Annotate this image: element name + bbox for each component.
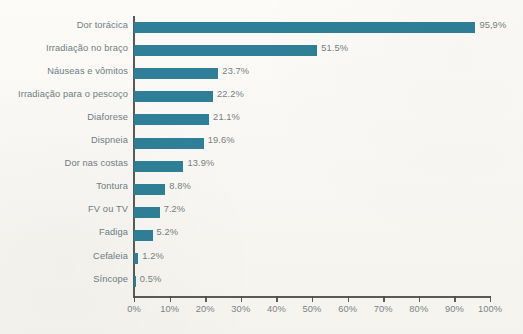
bar	[134, 276, 136, 287]
x-axis-tick	[348, 296, 349, 302]
bar-row: Náuseas e vômitos23.7%	[134, 62, 490, 85]
bar-value-label: 21.1%	[213, 112, 240, 122]
bar-value-label: 5.2%	[157, 227, 179, 237]
bar-row: Dor torácica95,9%	[134, 16, 490, 39]
bar-value-label: 19.6%	[208, 135, 235, 145]
category-label: Dor nas costas	[2, 158, 128, 168]
x-axis-tick-label: 10%	[160, 304, 179, 314]
x-axis-tick-label: 80%	[409, 304, 428, 314]
x-axis-tick-label: 60%	[338, 304, 357, 314]
x-axis-tick	[490, 296, 491, 302]
bar	[134, 138, 204, 149]
category-label: Fadiga	[2, 227, 128, 237]
category-label: Cefaleia	[2, 251, 128, 261]
bar-value-label: 95,9%	[479, 20, 506, 30]
bar	[134, 161, 183, 172]
x-axis-tick-label: 90%	[445, 304, 464, 314]
bar-row: Cefaleia1.2%	[134, 247, 490, 270]
bar-value-label: 0.5%	[140, 274, 162, 284]
bar	[134, 114, 209, 125]
bar-value-label: 8.8%	[169, 181, 191, 191]
bar-row: Dor nas costas13.9%	[134, 155, 490, 178]
bar-value-label: 7.2%	[164, 204, 186, 214]
x-axis-tick	[276, 296, 277, 302]
bar-row: Irradiação no braço51.5%	[134, 39, 490, 62]
bar	[134, 230, 153, 241]
x-axis-tick-label: 0%	[127, 304, 141, 314]
category-label: Náuseas e vômitos	[2, 66, 128, 76]
x-axis-tick-label: 100%	[478, 304, 502, 314]
x-axis-tick-label: 40%	[267, 304, 286, 314]
bar	[134, 68, 218, 79]
x-axis-tick-label: 30%	[231, 304, 250, 314]
x-axis-tick	[205, 296, 206, 302]
category-label: Dispneia	[2, 135, 128, 145]
bar	[134, 91, 213, 102]
x-axis-tick-label: 20%	[196, 304, 215, 314]
bar-row: Tontura8.8%	[134, 178, 490, 201]
bar	[134, 253, 138, 264]
bar-value-label: 22.2%	[217, 89, 244, 99]
x-axis-tick	[383, 296, 384, 302]
x-axis-tick	[312, 296, 313, 302]
category-label: Síncope	[2, 274, 128, 284]
bar-row: Diaforese21.1%	[134, 108, 490, 131]
bar	[134, 22, 475, 33]
bar	[134, 184, 165, 195]
x-axis-tick	[170, 296, 171, 302]
x-axis-tick	[134, 296, 135, 302]
bar-value-label: 13.9%	[187, 158, 214, 168]
bar-chart: Dor torácica95,9%Irradiação no braço51.5…	[0, 0, 523, 334]
bar	[134, 207, 160, 218]
x-axis-tick	[419, 296, 420, 302]
bar-row: FV ou TV7.2%	[134, 201, 490, 224]
bar-value-label: 23.7%	[222, 66, 249, 76]
category-label: Irradiação para o pescoço	[2, 89, 128, 99]
category-label: Diaforese	[2, 112, 128, 122]
x-axis-tick	[241, 296, 242, 302]
category-label: FV ou TV	[2, 204, 128, 214]
bar	[134, 45, 317, 56]
category-label: Irradiação no braço	[2, 43, 128, 53]
category-label: Tontura	[2, 181, 128, 191]
bar-row: Dispneia19.6%	[134, 132, 490, 155]
bar-value-label: 51.5%	[321, 43, 348, 53]
plot-area: Dor torácica95,9%Irradiação no braço51.5…	[134, 16, 490, 296]
bar-row: Irradiação para o pescoço22.2%	[134, 85, 490, 108]
x-axis-tick-label: 70%	[374, 304, 393, 314]
category-label: Dor torácica	[2, 20, 128, 30]
x-axis-tick	[454, 296, 455, 302]
bar-row: Fadiga5.2%	[134, 224, 490, 247]
x-axis-tick-label: 50%	[303, 304, 322, 314]
bar-row: Síncope0.5%	[134, 270, 490, 293]
bar-value-label: 1.2%	[142, 251, 164, 261]
